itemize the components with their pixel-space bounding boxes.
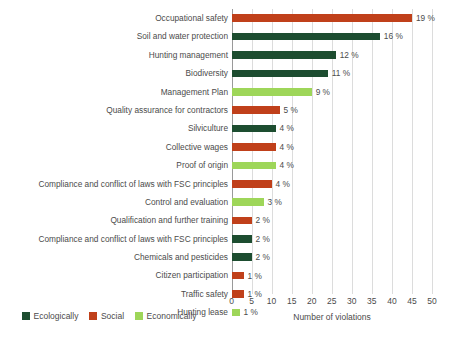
horizontal-bar-chart: Occupational safety19 %Soil and water pr… bbox=[0, 0, 454, 341]
bar-container: 11 % bbox=[232, 64, 351, 82]
legend-item: Social bbox=[89, 311, 124, 321]
bar-row: Proof of origin4 % bbox=[0, 156, 454, 174]
category-label: Chemicals and pesticides bbox=[0, 248, 228, 266]
category-label: Collective wages bbox=[0, 138, 228, 156]
bar-ecologically bbox=[232, 253, 252, 261]
bar-data-label: 4 % bbox=[280, 143, 294, 151]
bar-social bbox=[232, 272, 244, 280]
bar-row: Quality assurance for contractors5 % bbox=[0, 101, 454, 119]
category-label: Soil and water protection bbox=[0, 27, 228, 45]
bar-row: Citizen participation1 % bbox=[0, 266, 454, 284]
x-tick-label: 5 bbox=[249, 296, 254, 306]
bar-row: Control and evaluation3 % bbox=[0, 193, 454, 211]
bar-row: Hunting management12 % bbox=[0, 46, 454, 64]
legend-label: Social bbox=[101, 311, 124, 321]
bar-row: Silviculture4 % bbox=[0, 119, 454, 137]
bar-data-label: 2 % bbox=[256, 253, 270, 261]
bar-container: 1 % bbox=[232, 266, 262, 284]
bar-social bbox=[232, 143, 276, 151]
bar-data-label: 12 % bbox=[340, 51, 359, 59]
bar-container: 19 % bbox=[232, 9, 435, 27]
category-label: Hunting management bbox=[0, 46, 228, 64]
x-axis-tick-labels: 05101520253035404550 bbox=[0, 296, 454, 308]
category-label: Compliance and conflict of laws with FSC… bbox=[0, 175, 228, 193]
chart-legend: EcologicallySocialEconomically bbox=[22, 311, 197, 321]
x-tick-label: 25 bbox=[327, 296, 336, 306]
category-label: Silviculture bbox=[0, 119, 228, 137]
category-label: Citizen participation bbox=[0, 266, 228, 284]
bar-container: 4 % bbox=[232, 156, 294, 174]
legend-swatch bbox=[135, 312, 143, 320]
bar-row: Compliance and conflict of laws with FSC… bbox=[0, 230, 454, 248]
x-axis-title: Number of violations bbox=[232, 312, 433, 322]
x-tick-label: 10 bbox=[267, 296, 276, 306]
category-label: Biodiversity bbox=[0, 64, 228, 82]
x-tick-label: 50 bbox=[427, 296, 436, 306]
bar-container: 4 % bbox=[232, 175, 290, 193]
bar-data-label: 2 % bbox=[256, 235, 270, 243]
bar-social bbox=[232, 14, 412, 22]
category-label: Control and evaluation bbox=[0, 193, 228, 211]
bar-data-label: 3 % bbox=[268, 198, 282, 206]
bar-data-label: 4 % bbox=[280, 124, 294, 132]
bar-ecologically bbox=[232, 235, 252, 243]
bar-data-label: 16 % bbox=[384, 32, 403, 40]
bar-container: 5 % bbox=[232, 101, 298, 119]
bar-data-label: 19 % bbox=[416, 14, 435, 22]
bar-data-label: 1 % bbox=[248, 272, 262, 280]
bar-container: 4 % bbox=[232, 119, 294, 137]
legend-swatch bbox=[89, 312, 97, 320]
bar-data-label: 11 % bbox=[332, 69, 350, 77]
bar-row: Occupational safety19 % bbox=[0, 9, 454, 27]
bar-row: Collective wages4 % bbox=[0, 138, 454, 156]
bar-data-label: 5 % bbox=[284, 106, 298, 114]
bar-social bbox=[232, 217, 252, 225]
category-label: Compliance and conflict of laws with FSC… bbox=[0, 230, 228, 248]
legend-item: Ecologically bbox=[22, 311, 78, 321]
bar-row: Qualification and further training2 % bbox=[0, 211, 454, 229]
bar-container: 12 % bbox=[232, 46, 359, 64]
legend-label: Ecologically bbox=[34, 311, 79, 321]
bar-container: 9 % bbox=[232, 83, 330, 101]
bar-row: Compliance and conflict of laws with FSC… bbox=[0, 175, 454, 193]
bar-data-label: 4 % bbox=[276, 180, 290, 188]
bar-rows: Occupational safety19 %Soil and water pr… bbox=[0, 9, 454, 322]
x-tick-label: 20 bbox=[307, 296, 316, 306]
bar-ecologically bbox=[232, 125, 276, 133]
bar-row: Soil and water protection16 % bbox=[0, 27, 454, 45]
bar-economically bbox=[232, 198, 264, 206]
bar-data-label: 4 % bbox=[280, 161, 294, 169]
bar-row: Biodiversity11 % bbox=[0, 64, 454, 82]
bar-container: 3 % bbox=[232, 193, 282, 211]
bar-ecologically bbox=[232, 33, 380, 41]
bar-row: Management Plan9 % bbox=[0, 83, 454, 101]
bar-economically bbox=[232, 88, 312, 96]
bar-data-label: 9 % bbox=[316, 88, 330, 96]
bar-container: 16 % bbox=[232, 27, 403, 45]
x-tick-label: 40 bbox=[387, 296, 396, 306]
bar-container: 2 % bbox=[232, 248, 270, 266]
category-label: Management Plan bbox=[0, 83, 228, 101]
bar-data-label: 2 % bbox=[256, 216, 270, 224]
category-label: Qualification and further training bbox=[0, 211, 228, 229]
x-tick-label: 35 bbox=[367, 296, 376, 306]
x-tick-label: 30 bbox=[347, 296, 356, 306]
bar-row: Chemicals and pesticides2 % bbox=[0, 248, 454, 266]
category-label: Proof of origin bbox=[0, 156, 228, 174]
x-tick-label: 15 bbox=[287, 296, 296, 306]
bar-container: 2 % bbox=[232, 230, 270, 248]
bar-ecologically bbox=[232, 70, 328, 78]
bar-ecologically bbox=[232, 51, 336, 59]
category-label: Occupational safety bbox=[0, 9, 228, 27]
bar-social bbox=[232, 180, 272, 188]
x-tick-label: 0 bbox=[229, 296, 234, 306]
bar-economically bbox=[232, 162, 276, 170]
category-label: Quality assurance for contractors bbox=[0, 101, 228, 119]
legend-item: Economically bbox=[135, 311, 197, 321]
legend-label: Economically bbox=[147, 311, 197, 321]
legend-swatch bbox=[22, 312, 30, 320]
bar-container: 2 % bbox=[232, 211, 270, 229]
x-tick-label: 45 bbox=[407, 296, 416, 306]
bar-social bbox=[232, 106, 280, 114]
bar-container: 4 % bbox=[232, 138, 294, 156]
